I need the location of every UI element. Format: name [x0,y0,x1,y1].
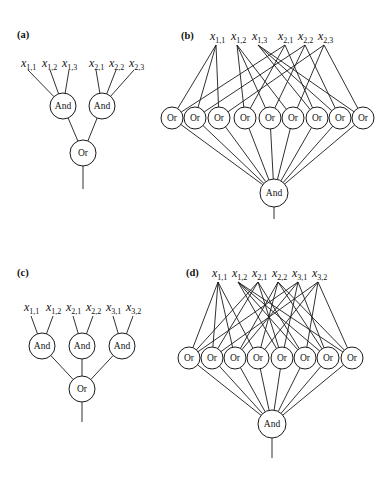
input-edge [213,282,218,347]
gate-or: Or [329,107,351,129]
gate-or: Or [306,107,328,129]
input-edge [216,45,219,107]
variable-subscript: 2,1 [257,273,267,282]
gate-label: Or [347,353,358,363]
variable-label: x1,1 [23,300,39,316]
gate-label: Or [77,384,88,394]
gate-label: Or [214,113,225,123]
gate-label: And [94,101,111,111]
gate-edge [68,118,78,141]
variable-subscript: 1,2 [47,63,57,72]
variable-subscript: 1,3 [67,63,77,72]
gate-edge [278,368,300,412]
variable-label: x2,2 [108,56,124,72]
gate-label: And [74,341,91,351]
gate-edge [88,118,97,141]
input-edge [193,282,218,348]
input-edge [237,45,244,107]
variable-label: x1,3 [61,56,77,72]
gate-or: Or [271,347,293,369]
variable-label: x1,2 [45,300,61,316]
gate-edge [271,129,274,179]
variable-label: x2,1 [88,56,104,72]
gate-or: Or [184,107,206,129]
gate-edge [277,129,290,180]
gate-or: Or [294,347,316,369]
variable-label: x3,2 [125,300,141,316]
boolean-circuit-figure: (a) x1,1x1,2x1,3x2,1x2,2x2,3AndAndOr (b)… [0,0,385,479]
gate-and: And [50,93,76,119]
gate-or: Or [259,107,281,129]
variable-label: x2,2 [297,29,313,45]
gate-label: Or [323,353,334,363]
gate-or: Or [161,107,183,129]
variable-subscript: 1,1 [215,36,225,45]
panel-label: (b) [181,30,194,42]
gate-edge [281,128,312,181]
gate-edge [260,369,269,411]
gate-label: And [266,188,283,198]
gate-edge [91,356,113,380]
variable-subscript: 3,1 [297,273,307,282]
gate-or: Or [178,347,200,369]
input-edge [218,282,253,348]
variable-label: x2,3 [128,56,144,72]
input-edge [258,45,354,112]
variable-subscript: 2,1 [94,63,104,72]
variable-subscript: 1,2 [51,307,61,316]
input-edge [258,282,299,349]
variable-subscript: 2,2 [277,273,287,282]
variable-label: x3,1 [291,266,307,282]
variable-label: x2,1 [277,29,293,45]
variable-subscript: 2,1 [71,307,81,316]
variable-subscript: 1,3 [257,36,267,45]
panel-label: (c) [17,267,29,279]
root-gate-or: Or [70,140,96,166]
variable-label: x3,2 [311,266,327,282]
variable-subscript: 1,2 [237,273,247,282]
gate-or: Or [234,107,256,129]
input-edge [96,70,100,93]
gate-label: Or [240,113,251,123]
variable-subscript: 2,1 [283,36,293,45]
edges [31,316,133,422]
input-edge [278,282,322,349]
input-edge [285,45,313,108]
nodes: x1,1x1,2x1,3x2,1x2,2x2,3AndAndOr [20,56,144,166]
gate-and: And [29,333,55,359]
gate-label: Or [230,353,241,363]
input-edge [218,282,233,347]
input-edge [50,70,59,94]
panel-label: (d) [186,267,199,279]
variable-subscript: 1,2 [236,36,246,45]
gate-and: And [109,333,135,359]
variable-subscript: 3,2 [131,307,141,316]
variable-subscript: 2,2 [91,307,101,316]
gate-and: And [69,333,95,359]
panel-a-and-or-circuit: (a) x1,1x1,2x1,3x2,1x2,2x2,3AndAndOr [17,29,144,189]
panel-d-or-and-circuit: (d) x1,1x1,2x2,1x2,2x3,1x3,2OrOrOrOrOrOr… [178,266,363,458]
variable-label: x3,1 [105,300,121,316]
gate-label: And [34,341,51,351]
gate-label: Or [265,113,276,123]
gate-or: Or [201,347,223,369]
gate-label: Or [253,353,264,363]
variable-subscript: 1,1 [29,307,39,316]
input-edge [28,70,54,97]
panel-c-and-or-circuit: (c) x1,1x1,2x2,1x2,2x3,1x3,2AndAndAndOr [17,267,141,422]
input-edge [126,316,133,334]
input-edge [65,70,69,93]
input-edge [198,45,216,107]
input-edge [73,316,78,334]
gate-label: Or [190,113,201,123]
gate-or: Or [224,347,246,369]
gate-edge [283,365,344,415]
gate-edge [226,127,266,182]
gate-or: Or [317,347,339,369]
variable-subscript: 1,1 [217,273,227,282]
gate-edge [274,369,280,410]
gate-label: Or [312,113,323,123]
gate-label: Or [277,353,288,363]
variable-label: x2,3 [317,29,333,45]
variable-subscript: 2,3 [134,63,144,72]
